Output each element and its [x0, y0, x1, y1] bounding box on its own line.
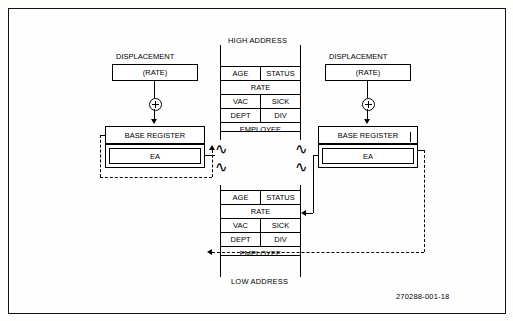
figure-id-tag: 270288-001-18 — [396, 292, 449, 301]
table-row: AGE STATUS — [221, 67, 300, 81]
figure-canvas: HIGH ADDRESS LOW ADDRESS ∿ ∿ ∿ ∿ AGE STA… — [0, 0, 513, 321]
cell-status: STATUS — [261, 191, 300, 204]
cell-dept: DEPT — [221, 109, 261, 122]
right-feedback-dash-v — [424, 150, 425, 252]
table-row: VAC SICK — [221, 95, 300, 109]
left-base-register-box: BASE REGISTER — [105, 126, 205, 144]
cell-rate: RATE — [221, 81, 300, 94]
right-ea-path-stub — [313, 155, 318, 156]
cell-rate: RATE — [221, 205, 300, 218]
right-ea-path-h — [306, 213, 313, 214]
left-rate-label: (RATE) — [143, 68, 167, 77]
cell-age: AGE — [221, 67, 261, 80]
right-base-register-box: BASE REGISTER — [318, 126, 418, 144]
cell-status: STATUS — [261, 67, 300, 80]
high-address-label: HIGH ADDRESS — [228, 36, 287, 45]
figure-border — [8, 8, 506, 314]
right-adder-arrow-icon — [364, 119, 370, 124]
right-base-feedback-v — [410, 132, 411, 142]
record-upper: AGE STATUS RATE VAC SICK DEPT DIV EMPLOY… — [220, 66, 301, 132]
cell-employee: EMPLOYEE — [221, 123, 300, 136]
cell-sick: SICK — [261, 219, 300, 232]
right-displacement-label: DISPLACEMENT — [329, 52, 387, 61]
low-address-label: LOW ADDRESS — [231, 277, 288, 286]
left-feedback-dash-h — [100, 177, 212, 178]
table-row: AGE STATUS — [221, 191, 300, 205]
table-row: DEPT DIV — [221, 233, 300, 247]
left-ea-to-memory-line — [205, 155, 215, 156]
left-feedback-stub — [100, 135, 105, 136]
right-feedback-arrow-icon — [207, 249, 212, 255]
right-ea-arrow-icon — [301, 210, 306, 216]
cell-age: AGE — [221, 191, 261, 204]
cell-employee: EMPLOYEE — [221, 247, 300, 260]
right-displacement-box: (RATE) — [325, 64, 411, 81]
left-adder-arrow-icon — [151, 119, 157, 124]
memory-break-left-icon: ∿ — [215, 142, 228, 157]
right-rate-label: (RATE) — [356, 68, 380, 77]
right-disp-to-adder-line — [367, 81, 368, 98]
right-base-register-label: BASE REGISTER — [322, 130, 414, 140]
cell-div: DIV — [261, 109, 300, 122]
memory-break-right-icon-2: ∿ — [295, 160, 308, 175]
table-row: RATE — [221, 81, 300, 95]
left-feedback-dash-v — [100, 135, 101, 177]
right-feedback-stub — [418, 150, 424, 151]
memory-break-left-icon-2: ∿ — [215, 160, 228, 175]
cell-dept: DEPT — [221, 233, 261, 246]
cell-vac: VAC — [221, 95, 261, 108]
table-row: EMPLOYEE — [221, 247, 300, 260]
left-ea-outer-box: EA — [105, 144, 205, 168]
left-displacement-label: DISPLACEMENT — [116, 52, 174, 61]
table-row: RATE — [221, 205, 300, 219]
right-ea-path-v — [313, 155, 314, 213]
left-ea-label: EA — [109, 148, 201, 164]
table-row: DEPT DIV — [221, 109, 300, 123]
record-lower: AGE STATUS RATE VAC SICK DEPT DIV EMPLOY… — [220, 190, 301, 256]
cell-div: DIV — [261, 233, 300, 246]
right-ea-label: EA — [322, 148, 414, 164]
left-adder-icon — [149, 98, 162, 111]
left-displacement-box: (RATE) — [112, 64, 198, 81]
memory-break-right-icon: ∿ — [295, 142, 308, 157]
cell-sick: SICK — [261, 95, 300, 108]
cell-vac: VAC — [221, 219, 261, 232]
right-feedback-dash-h — [212, 252, 424, 253]
right-ea-outer-box: EA — [318, 144, 418, 168]
right-adder-icon — [362, 98, 375, 111]
left-base-register-label: BASE REGISTER — [109, 130, 201, 140]
table-row: VAC SICK — [221, 219, 300, 233]
left-feedback-arrow-icon — [209, 145, 215, 150]
table-row: EMPLOYEE — [221, 123, 300, 136]
left-disp-to-adder-line — [154, 81, 155, 98]
